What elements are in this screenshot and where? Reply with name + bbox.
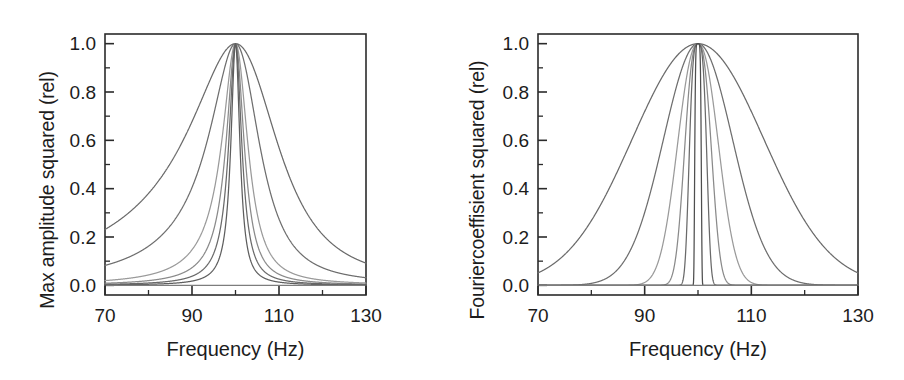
y-tick-label: 0.4: [503, 178, 530, 199]
y-tick-label: 0.4: [70, 178, 97, 199]
x-tick-label: 130: [350, 305, 382, 326]
curve-1: [105, 44, 366, 263]
y-tick-label: 0.6: [70, 130, 96, 151]
y-tick-label: 1.0: [503, 33, 529, 54]
plot-area-left: 70901101300.00.20.40.60.81.0: [0, 0, 452, 380]
y-tick-label: 0.8: [70, 82, 96, 103]
x-axis-label-right: Frequency (Hz): [538, 338, 858, 361]
y-tick-label: 0.0: [503, 275, 529, 296]
plot-frame: [105, 34, 366, 295]
x-tick-label: 110: [264, 305, 294, 326]
x-tick-label: 110: [736, 305, 766, 326]
x-tick-label: 90: [181, 305, 202, 326]
y-tick-label: 0.2: [503, 227, 529, 248]
y-tick-label: 0.8: [503, 82, 529, 103]
x-axis-label-left: Frequency (Hz): [105, 338, 366, 361]
curve-5: [538, 44, 858, 286]
curve-1: [538, 44, 858, 273]
x-tick-label: 70: [527, 305, 548, 326]
panel-fourier-coefficient: Fouriercoeffisient squared (rel) 7090110…: [452, 0, 904, 380]
panel-max-amplitude: Max amplitude squared (rel) 70901101300.…: [0, 0, 452, 380]
y-tick-label: 0.2: [70, 227, 96, 248]
curve-6: [538, 44, 858, 286]
curve-2: [105, 44, 366, 278]
curve-3: [538, 44, 858, 286]
y-tick-label: 0.0: [70, 275, 96, 296]
curve-3: [105, 44, 366, 283]
curve-2: [538, 44, 858, 286]
curve-4: [105, 44, 366, 284]
y-tick-label: 1.0: [70, 33, 96, 54]
plot-frame: [538, 34, 858, 295]
plot-area-right: 70901101300.00.20.40.60.81.0: [452, 0, 904, 380]
x-tick-label: 70: [94, 305, 115, 326]
x-tick-label: 90: [634, 305, 655, 326]
x-tick-label: 130: [842, 305, 874, 326]
y-tick-label: 0.6: [503, 130, 529, 151]
figure-two-panel-resonance: Max amplitude squared (rel) 70901101300.…: [0, 0, 904, 380]
curve-4: [538, 44, 858, 286]
